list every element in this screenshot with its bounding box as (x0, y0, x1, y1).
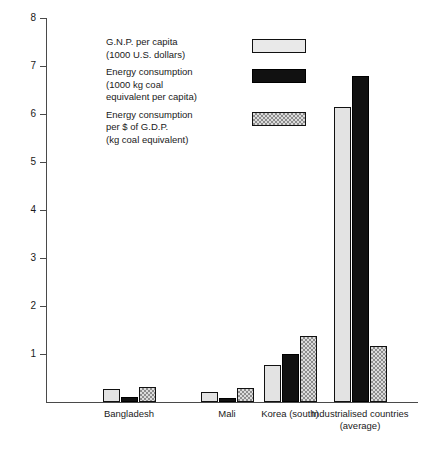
x-axis-line (46, 402, 418, 403)
legend-swatch (252, 69, 306, 83)
bar (121, 397, 138, 402)
y-axis-tick-label: 1 (6, 349, 36, 359)
bar (370, 346, 387, 402)
y-axis-tick-label: 2 (6, 301, 36, 311)
y-axis-tick-label: 6 (6, 109, 36, 119)
bar (103, 389, 120, 402)
bar-chart: 12345678 BangladeshMaliKorea (south)Indu… (0, 0, 425, 449)
legend-label: G.N.P. per capita(1000 U.S. dollars) (106, 36, 216, 61)
bar (300, 336, 317, 402)
legend-label: Energy consumption(1000 kg coalequivalen… (106, 66, 216, 104)
legend-swatch (252, 39, 306, 53)
y-axis-tick-label: 4 (6, 205, 36, 215)
y-axis-tick-label: 5 (6, 157, 36, 167)
bar (352, 76, 369, 402)
bar (201, 392, 218, 402)
bar (282, 354, 299, 402)
bar (237, 388, 254, 402)
legend-item: G.N.P. per capita(1000 U.S. dollars) (106, 36, 306, 61)
legend-item: Energy consumption(1000 kg coalequivalen… (106, 66, 306, 104)
bar (264, 365, 281, 402)
y-axis-tick-label: 3 (6, 253, 36, 263)
y-axis-tick-label: 8 (6, 13, 36, 23)
x-axis-category-label: Bangladesh (74, 408, 184, 420)
bar (219, 398, 236, 402)
bar (139, 387, 156, 402)
legend-label: Energy consumptionper $ of G.D.P.(kg coa… (106, 109, 216, 147)
chart-legend: G.N.P. per capita(1000 U.S. dollars)Ener… (106, 36, 306, 151)
y-axis-tick-label: 7 (6, 61, 36, 71)
x-axis-category-label: Industrialised countries (average) (305, 408, 415, 432)
legend-item: Energy consumptionper $ of G.D.P.(kg coa… (106, 109, 306, 147)
bar (334, 107, 351, 402)
legend-swatch (252, 112, 306, 126)
